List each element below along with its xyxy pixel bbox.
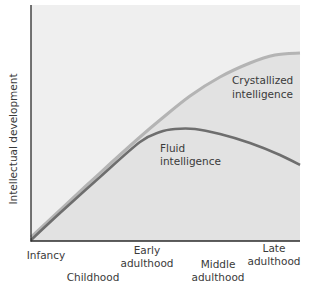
label-line: adulthood [192,271,245,283]
label-line: Late [263,242,286,254]
label-line: adulthood [248,255,301,267]
label-line: Childhood [67,271,120,283]
label-line: Infancy [27,249,66,261]
label-line: intelligence [232,88,293,100]
label-line: Fluid [160,142,185,154]
label-line: intelligence [160,155,221,167]
y-axis-label: Intellectual development [7,73,19,204]
label-line: Early [134,244,161,256]
label-line: Middle [201,258,236,270]
label-line: Crystallized [232,74,293,86]
x-tick-labels: InfancyChildhoodEarlyadulthoodMiddleadul… [27,242,301,283]
label-line: adulthood [121,257,174,269]
intelligence-chart: Intellectual development Crystallizedint… [0,0,316,286]
